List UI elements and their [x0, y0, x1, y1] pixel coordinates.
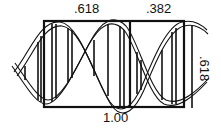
- golden-ratio-dna-diagram: .618 .382 1.00 .618: [0, 0, 221, 130]
- label-total-width: 1.00: [103, 111, 128, 124]
- base-pair-rungs: [25, 24, 192, 108]
- golden-rectangle-frame: [44, 21, 184, 107]
- label-618-height: .618: [198, 56, 211, 81]
- outer-golden-rectangle: [44, 21, 184, 107]
- label-382-width: .382: [146, 2, 171, 15]
- label-618-width: .618: [74, 2, 99, 15]
